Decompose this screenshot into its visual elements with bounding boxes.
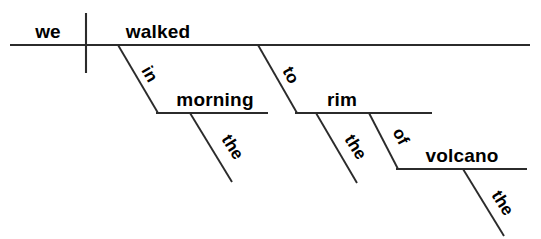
- word-article-the-rim: the: [341, 131, 371, 163]
- sentence-diagram-canvas: we walked in morning the to rim the of v…: [0, 0, 541, 239]
- word-verb-walked: walked: [125, 21, 191, 42]
- word-object-rim: rim: [327, 89, 357, 110]
- word-preposition-of: of: [389, 125, 414, 149]
- word-preposition-to: to: [278, 63, 303, 87]
- diagram-lines: [10, 13, 530, 236]
- word-object-morning: morning: [176, 89, 253, 110]
- word-subject-we: we: [34, 21, 61, 42]
- diagram-words: we walked in morning the to rim the of v…: [34, 21, 518, 219]
- word-object-volcano: volcano: [425, 145, 498, 166]
- sentence-diagram: we walked in morning the to rim the of v…: [0, 0, 541, 239]
- word-preposition-in: in: [138, 63, 162, 86]
- word-article-the-volcano: the: [488, 187, 518, 219]
- word-article-the-morning: the: [218, 131, 248, 163]
